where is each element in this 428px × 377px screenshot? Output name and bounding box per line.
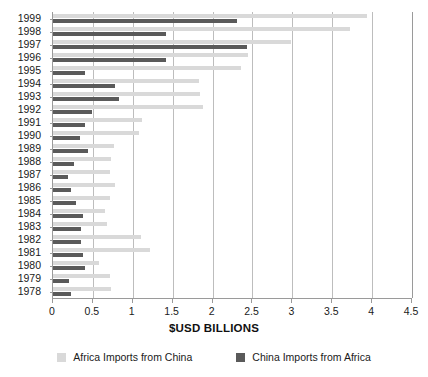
bar-africa-imports-from-china: [53, 79, 199, 83]
legend-label: China Imports from Africa: [252, 352, 370, 363]
x-axis-tick-label: 3: [288, 304, 294, 318]
x-axis-tick: [92, 299, 93, 303]
y-axis-label: 1993: [0, 90, 46, 103]
y-axis-label: 1985: [0, 194, 46, 207]
bar-china-imports-from-africa: [53, 45, 247, 49]
bar-china-imports-from-africa: [53, 84, 115, 88]
x-axis-tick: [212, 299, 213, 303]
x-axis-tick-label: 3.5: [324, 304, 339, 318]
bar-africa-imports-from-china: [53, 235, 141, 239]
bar-row: [53, 142, 412, 155]
x-axis-tick-label: 0.5: [85, 304, 100, 318]
bar-row: [53, 272, 412, 285]
bar-row: [53, 90, 412, 103]
bar-row: [53, 51, 412, 64]
bar-china-imports-from-africa: [53, 149, 88, 153]
x-axis-tick: [52, 299, 53, 303]
plot-area: [52, 12, 412, 299]
bar-china-imports-from-africa: [53, 32, 166, 36]
bar-row: [53, 285, 412, 298]
bar-row: [53, 64, 412, 77]
y-axis-label: 1983: [0, 220, 46, 233]
legend-item[interactable]: Africa Imports from China: [57, 352, 192, 363]
x-axis-tick: [371, 299, 372, 303]
bar-row: [53, 207, 412, 220]
y-axis-label: 1988: [0, 155, 46, 168]
y-axis-label: 1992: [0, 103, 46, 116]
bar-row: [53, 38, 412, 51]
y-axis-label: 1996: [0, 51, 46, 64]
y-axis-label: 1979: [0, 272, 46, 285]
bar-row: [53, 155, 412, 168]
bar-china-imports-from-africa: [53, 253, 83, 257]
bar-china-imports-from-africa: [53, 266, 85, 270]
bar-africa-imports-from-china: [53, 248, 150, 252]
bar-china-imports-from-africa: [53, 97, 119, 101]
bar-china-imports-from-africa: [53, 227, 81, 231]
bar-rows: [53, 12, 412, 298]
bar-china-imports-from-africa: [53, 188, 71, 192]
bar-row: [53, 103, 412, 116]
bar-china-imports-from-africa: [53, 175, 68, 179]
bar-africa-imports-from-china: [53, 92, 200, 96]
legend-item[interactable]: China Imports from Africa: [236, 352, 370, 363]
bar-row: [53, 246, 412, 259]
bar-africa-imports-from-china: [53, 170, 110, 174]
bar-africa-imports-from-china: [53, 14, 367, 18]
x-axis-tick-labels: 00.511.522.533.544.5: [0, 304, 428, 320]
bar-row: [53, 233, 412, 246]
x-axis-tick-label: 4: [368, 304, 374, 318]
bar-china-imports-from-africa: [53, 292, 71, 296]
bar-africa-imports-from-china: [53, 105, 203, 109]
y-axis-label: 1980: [0, 259, 46, 272]
legend-swatch-icon: [236, 353, 245, 362]
bar-china-imports-from-africa: [53, 136, 80, 140]
bar-row: [53, 194, 412, 207]
bar-row: [53, 77, 412, 90]
x-axis-tick-label: 4.5: [404, 304, 419, 318]
legend-label: Africa Imports from China: [73, 352, 192, 363]
bar-africa-imports-from-china: [53, 66, 241, 70]
x-axis-tick: [291, 299, 292, 303]
y-axis-label: 1997: [0, 38, 46, 51]
bar-china-imports-from-africa: [53, 71, 85, 75]
bar-row: [53, 259, 412, 272]
y-axis-label: 1982: [0, 233, 46, 246]
x-axis-tick-label: 2.5: [244, 304, 259, 318]
y-axis-label: 1991: [0, 116, 46, 129]
bar-africa-imports-from-china: [53, 261, 99, 265]
bar-row: [53, 25, 412, 38]
bar-china-imports-from-africa: [53, 279, 69, 283]
y-axis-label: 1986: [0, 181, 46, 194]
bar-row: [53, 181, 412, 194]
bar-china-imports-from-africa: [53, 123, 85, 127]
y-axis-label: 1995: [0, 64, 46, 77]
y-axis-year-labels: 1999199819971996199519941993199219911990…: [0, 12, 46, 298]
y-axis-label: 1978: [0, 285, 46, 298]
x-axis-tick: [411, 299, 412, 303]
bar-row: [53, 116, 412, 129]
x-axis-title: $USD BILLIONS: [0, 322, 428, 334]
y-axis-label: 1987: [0, 168, 46, 181]
y-axis-label: 1981: [0, 246, 46, 259]
bar-china-imports-from-africa: [53, 162, 74, 166]
bar-africa-imports-from-china: [53, 157, 111, 161]
bar-africa-imports-from-china: [53, 209, 105, 213]
x-axis-tick: [132, 299, 133, 303]
bar-china-imports-from-africa: [53, 19, 237, 23]
bar-africa-imports-from-china: [53, 144, 114, 148]
bar-china-imports-from-africa: [53, 58, 166, 62]
bar-africa-imports-from-china: [53, 27, 350, 31]
y-axis-label: 1999: [0, 12, 46, 25]
bar-africa-imports-from-china: [53, 196, 110, 200]
x-axis-tick: [172, 299, 173, 303]
chart-legend: Africa Imports from ChinaChina Imports f…: [0, 352, 428, 363]
legend-swatch-icon: [57, 353, 66, 362]
y-axis-label: 1989: [0, 142, 46, 155]
x-axis-tick-label: 1: [129, 304, 135, 318]
bar-china-imports-from-africa: [53, 110, 92, 114]
bar-row: [53, 12, 412, 25]
bar-row: [53, 129, 412, 142]
y-axis-label: 1984: [0, 207, 46, 220]
y-axis-label: 1990: [0, 129, 46, 142]
